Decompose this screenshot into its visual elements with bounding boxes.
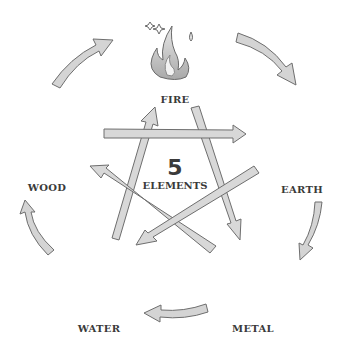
arrow-water-to-fire [112, 107, 158, 240]
arrow-fire-to-earth [236, 33, 296, 85]
element-label-wood: WOOD [20, 182, 74, 193]
element-label-metal: METAL [226, 323, 280, 334]
center-number: 5 [160, 155, 190, 180]
arrow-wood-to-fire [52, 39, 113, 88]
flame-icon [145, 22, 193, 80]
arrow-earth-to-metal [299, 202, 322, 260]
center-title: ELEMENTS [140, 180, 210, 191]
arrow-metal-to-water [144, 304, 208, 322]
element-label-fire: FIRE [150, 94, 200, 105]
arrow-water-to-wood [20, 200, 54, 255]
element-label-earth: EARTH [275, 184, 329, 195]
arrow-wood-to-earth [104, 125, 246, 143]
element-label-water: WATER [72, 323, 126, 334]
